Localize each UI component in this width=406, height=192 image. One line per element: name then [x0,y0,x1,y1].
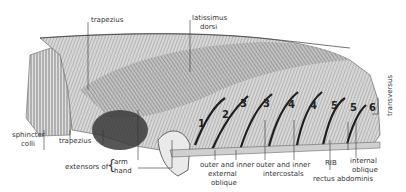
rib-number-4b: 4 [310,101,317,111]
rib-number-5a: 5 [331,101,338,111]
label-intercostals-2: intercostals [263,170,304,178]
label-hand: hand [114,167,132,175]
label-rib: RIB [325,159,337,167]
rib-number-5b: 5 [350,103,357,113]
rib-number-4a: 4 [288,100,295,110]
label-external-oblique-3: oblique [211,179,237,187]
label-external-oblique-2: external [208,170,237,178]
label-trapezius-top: trapezius [91,16,123,24]
label-extensors-of: extensors of [65,163,108,171]
label-oblique: oblique [352,166,378,174]
label-colli: colli [21,140,35,148]
rib-number-6: 6 [369,103,376,113]
rib-number-3b: 3 [263,99,270,109]
label-arm: arm [114,158,128,166]
label-transversus: transversus [386,75,394,116]
rib-number-3a: 3 [240,99,247,109]
label-external-oblique-1: outer and inner [200,161,254,169]
label-latissimus: latissimus [192,14,227,22]
label-dorsi: dorsi [200,23,217,31]
label-internal: internal [350,157,377,165]
rib-number-1: 1 [198,119,205,129]
label-rectus-abdominis: rectus abdominis [313,175,373,183]
label-trapezius-bottom: trapezius [59,137,91,145]
label-intercostals-1: outer and inner [256,161,310,169]
rib-number-2: 2 [222,110,229,120]
label-sphincter: sphincter [12,131,45,139]
